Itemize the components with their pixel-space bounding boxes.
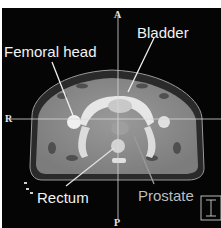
ct-image-viewport: A R P Femoral head Bladder Rectum Prosta… <box>2 8 221 228</box>
i-beam-scale-icon <box>201 196 221 220</box>
prostate-structure <box>111 121 129 135</box>
orientation-posterior: P <box>114 218 120 228</box>
femoral-head-left <box>158 116 170 128</box>
bladder-structure <box>108 99 132 113</box>
label-prostate: Prostate <box>138 188 194 203</box>
orientation-right: R <box>5 114 12 124</box>
label-femoral-head: Femoral head <box>4 44 97 59</box>
orientation-anterior: A <box>114 10 121 20</box>
side-marker-icon <box>24 182 33 194</box>
coccyx <box>112 158 126 163</box>
label-rectum: Rectum <box>37 190 89 205</box>
label-bladder: Bladder <box>137 25 189 40</box>
